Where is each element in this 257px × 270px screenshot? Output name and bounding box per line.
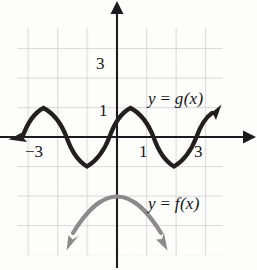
curve-g-label-equals: = xyxy=(156,89,175,108)
y-tick-label-1: 1 xyxy=(99,102,108,119)
y-tick-label-3: 3 xyxy=(96,55,105,72)
curve-f-label-equals: = xyxy=(156,194,175,213)
curve-f-label: y = f(x) xyxy=(148,195,200,212)
grid xyxy=(18,28,223,256)
coordinate-plot xyxy=(0,0,257,270)
curve-f-label-fn: f(x) xyxy=(175,194,200,213)
plot-svg xyxy=(0,0,257,270)
curve-f-label-y: y xyxy=(148,194,156,213)
figure-page: 54. xyxy=(0,0,257,270)
x-tick-label-minus-3: −3 xyxy=(25,143,43,160)
x-tick-label-3: 3 xyxy=(194,143,203,160)
curve-g-label-y: y xyxy=(148,89,156,108)
x-tick-label-1: 1 xyxy=(139,143,148,160)
curve-g-label: y = g(x) xyxy=(148,90,203,107)
curve-g-label-fn: g(x) xyxy=(175,89,204,108)
